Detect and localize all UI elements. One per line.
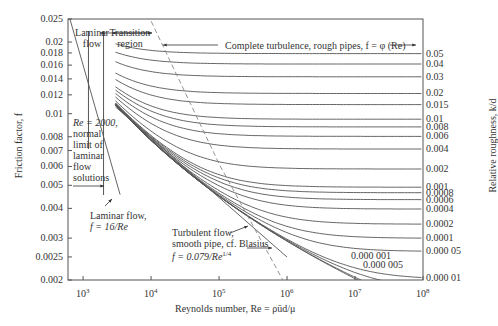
annotation-turbulent-smooth: Turbulent flow, smooth pipe, cf. Blasius…	[172, 227, 268, 262]
roughness-label: 0.004	[426, 143, 449, 154]
x-tick-label: 107	[348, 286, 362, 299]
roughness-curve	[116, 73, 422, 94]
re2000-line: normal	[73, 128, 118, 139]
blasius-arrow-head	[268, 246, 272, 249]
roughness-label: 0.002	[426, 163, 449, 174]
turbulent-line: smooth pipe, cf. Blasius	[172, 238, 268, 249]
y-tick-label: 0.006	[23, 160, 63, 171]
roughness-curve	[116, 105, 422, 225]
x-tick-label: 106	[280, 286, 294, 299]
y-tick-label: 0.012	[23, 89, 63, 100]
turbulent-line: f = 0.079/Re1/4	[172, 249, 268, 262]
y-tick-label: 0.018	[23, 47, 63, 58]
annotation-complete-turbulence: Complete turbulence, rough pipes, f = φ …	[225, 40, 406, 51]
y2-axis-title: Relative roughness, k/d	[487, 86, 498, 206]
x-tick-label: 104	[144, 286, 158, 299]
roughness-label: 0.05	[426, 48, 444, 59]
annotation-re2000: Re = 2000, normal limit of laminar flow …	[73, 117, 118, 183]
y-tick-label: 0.02	[23, 36, 63, 47]
roughness-label: 0.02	[426, 87, 444, 98]
complete-arrow-left-head	[163, 43, 167, 46]
y-tick-label: 0.0025	[23, 251, 63, 262]
y-tick-label: 0.01	[23, 108, 63, 119]
roughness-label: 0.03	[426, 71, 444, 82]
roughness-label: 0.0004	[426, 203, 454, 214]
roughness-label: 0.04	[426, 58, 444, 69]
annotation-curve-5e-6: 0.000 005	[363, 259, 403, 270]
roughness-label: 0.000 05	[426, 245, 461, 256]
roughness-label: 0.000 01	[426, 272, 461, 283]
roughness-label: 0.0002	[426, 218, 454, 229]
x-tick-label: 103	[76, 286, 90, 299]
re2000-line: flow	[73, 161, 118, 172]
y-tick-label: 0.014	[23, 73, 63, 84]
roughness-label: 0.006	[426, 130, 449, 141]
y-tick-label: 0.003	[23, 232, 63, 243]
roughness-curve	[116, 104, 422, 200]
annotation-transition: Transition region	[106, 27, 154, 49]
y-tick-label: 0.025	[23, 13, 63, 24]
laminar-f-line: f = 16/Re	[90, 221, 147, 232]
laminar-f-line: Laminar flow,	[90, 210, 147, 221]
y-tick-label: 0.002	[23, 274, 63, 285]
re2000-line: solutions	[73, 172, 118, 183]
roughness-curve	[116, 80, 422, 105]
blasius-formula: f = 0.079/Re	[172, 251, 222, 262]
y-tick-label: 0.008	[23, 131, 63, 142]
curves	[68, 7, 430, 326]
y-tick-label: 0.005	[23, 179, 63, 190]
roughness-curve	[116, 104, 422, 209]
roughness-label: 0.0001	[426, 232, 454, 243]
x-tick-label: 105	[212, 286, 226, 299]
y-tick-label: 0.004	[23, 202, 63, 213]
x-tick-label: 108	[416, 286, 430, 299]
blasius-exponent: 1/4	[222, 250, 231, 258]
annotation-laminar-f: Laminar flow, f = 16/Re	[90, 210, 147, 232]
roughness-label: 0.015	[426, 99, 449, 110]
complete-arrow-right-head	[412, 43, 416, 46]
re2000-line: laminar	[73, 150, 118, 161]
re2000-line: Re = 2000,	[73, 117, 118, 128]
re2000-line: limit of	[73, 139, 118, 150]
turbulent-line: Turbulent flow,	[172, 227, 268, 238]
x-axis-title: Reynolds number, Re = ρūd/μ	[175, 303, 295, 314]
roughness-curve	[116, 105, 422, 238]
y-axis-title: Friction factor, f	[13, 101, 24, 191]
y-tick-label: 0.016	[23, 59, 63, 70]
roughness-curve	[116, 87, 422, 119]
roughness-curve	[116, 101, 422, 169]
y-tick-label: 0.007	[23, 145, 63, 156]
